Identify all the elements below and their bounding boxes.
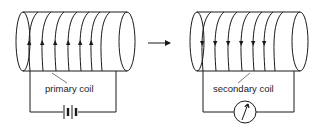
primary-coil-label: primary coil	[45, 83, 94, 94]
secondary-current-arrows	[200, 41, 266, 46]
meter-icon	[234, 101, 256, 123]
primary-current-arrows	[27, 40, 93, 45]
secondary-coil	[190, 12, 308, 71]
primary-label-leader	[52, 73, 67, 83]
induction-diagram: primary coil secondary coil	[0, 0, 323, 131]
battery-icon	[64, 105, 76, 119]
primary-coil	[16, 12, 135, 71]
secondary-label-leader	[238, 73, 250, 83]
secondary-coil-label: secondary coil	[213, 83, 274, 94]
